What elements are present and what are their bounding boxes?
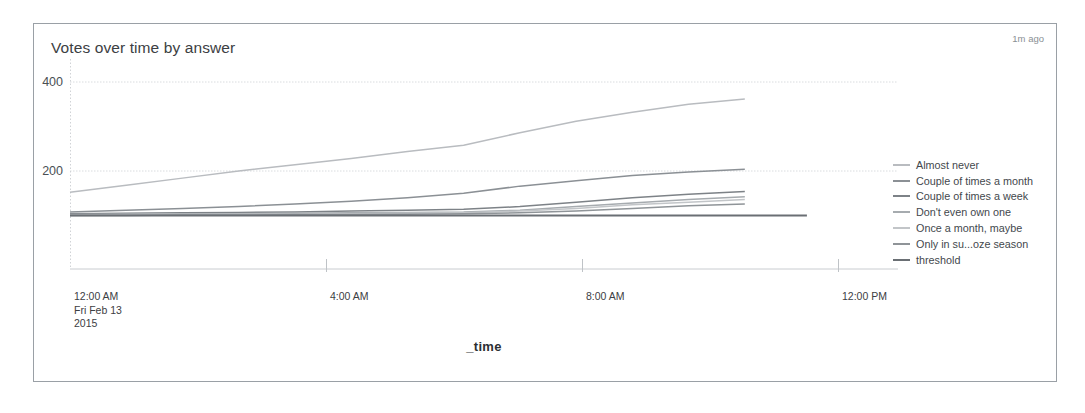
legend-item[interactable]: Couple of times a month <box>893 173 1048 189</box>
legend-item-label: Couple of times a month <box>916 175 1033 187</box>
legend-swatch-icon <box>893 243 910 245</box>
series-line <box>70 197 745 215</box>
x-tick-year: 2015 <box>74 317 122 331</box>
axis-lines <box>71 59 839 272</box>
series-line <box>70 99 745 192</box>
line-chart-svg <box>70 59 898 284</box>
x-tick-2: 8:00 AM <box>586 290 625 304</box>
legend-item[interactable]: Almost never <box>893 157 1048 173</box>
legend-swatch-icon <box>893 259 910 261</box>
legend-item-label: threshold <box>916 254 960 266</box>
x-tick-time: 12:00 AM <box>74 290 118 302</box>
y-tick-200: 200 <box>42 164 63 178</box>
x-tick-time: 12:00 PM <box>842 290 887 302</box>
plot-area: 400 200 12:00 AM Fri Feb 13 2015 4:00 AM… <box>70 59 898 284</box>
legend-item-label: Only in su...oze season <box>916 238 1028 250</box>
x-tick-time: 8:00 AM <box>586 290 625 302</box>
chart-panel: Votes over time by answer 1m ago 400 200… <box>33 23 1057 382</box>
refresh-timestamp: 1m ago <box>1012 33 1044 44</box>
x-tick-date: Fri Feb 13 <box>74 304 122 318</box>
chart-legend: Almost neverCouple of times a monthCoupl… <box>893 157 1048 268</box>
legend-item[interactable]: threshold <box>893 252 1048 268</box>
legend-item[interactable]: Couple of times a week <box>893 189 1048 205</box>
x-tick-time: 4:00 AM <box>330 290 369 302</box>
gridlines <box>70 82 898 269</box>
legend-swatch-icon <box>893 211 910 213</box>
legend-item-label: Once a month, maybe <box>916 222 1022 234</box>
legend-item-label: Don't even own one <box>916 206 1011 218</box>
legend-item[interactable]: Only in su...oze season <box>893 236 1048 252</box>
legend-swatch-icon <box>893 195 910 197</box>
legend-item-label: Almost never <box>916 159 979 171</box>
legend-swatch-icon <box>893 180 910 182</box>
x-tick-1: 4:00 AM <box>330 290 369 304</box>
y-tick-400: 400 <box>42 75 63 89</box>
series-lines <box>70 99 807 216</box>
x-axis-title: _time <box>70 339 898 354</box>
x-tick-0: 12:00 AM Fri Feb 13 2015 <box>74 290 122 331</box>
x-tick-3: 12:00 PM <box>842 290 887 304</box>
legend-item[interactable]: Once a month, maybe <box>893 220 1048 236</box>
legend-swatch-icon <box>893 227 910 229</box>
legend-item[interactable]: Don't even own one <box>893 204 1048 220</box>
legend-swatch-icon <box>893 164 910 166</box>
series-line <box>70 169 745 212</box>
page-title: Votes over time by answer <box>51 39 235 57</box>
legend-item-label: Couple of times a week <box>916 190 1028 202</box>
